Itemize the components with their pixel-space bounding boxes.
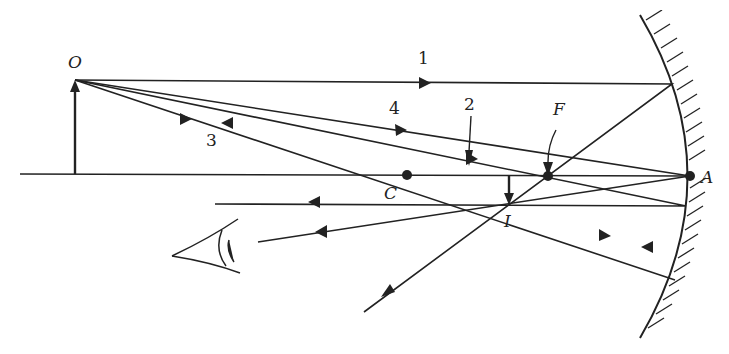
center-point (402, 170, 412, 180)
label-ray-1: 1 (418, 48, 429, 68)
label-image: I (503, 211, 511, 231)
focus-pointer (548, 130, 556, 162)
eye-icon (172, 219, 240, 273)
ray2-pointer (469, 116, 471, 152)
arrowheads (70, 77, 653, 297)
ray-diagram: O 1 2 3 4 F C A I (0, 0, 729, 354)
ray-2 (75, 80, 686, 206)
label-ray-4: 4 (389, 98, 400, 118)
principal-axis (20, 174, 690, 176)
label-object: O (68, 52, 82, 72)
ray-3 (75, 80, 675, 280)
label-center: C (384, 183, 397, 203)
ray-1 (75, 80, 672, 312)
diagram-canvas: O 1 2 3 4 F C A I (0, 0, 729, 354)
label-ray-2: 2 (464, 94, 475, 114)
vertex-point (685, 171, 695, 181)
ray-4 (75, 80, 690, 242)
label-ray-3: 3 (206, 130, 217, 150)
focus-point (543, 171, 553, 181)
mirror-hatching (646, 10, 706, 328)
label-focus: F (552, 99, 566, 119)
label-vertex: A (699, 167, 713, 187)
